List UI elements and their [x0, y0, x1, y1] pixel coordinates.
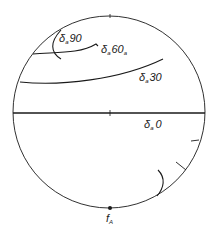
delta-60-curve: [33, 44, 98, 54]
label-delta-90: δa90: [59, 32, 83, 45]
label-delta-30: δa30: [139, 71, 163, 84]
pole-point: [108, 206, 112, 210]
label-delta-60: δa60a: [101, 43, 128, 56]
diagram-canvas: δa90 δa60a δa30 δa0 fA: [0, 0, 215, 236]
outer-circle: [13, 16, 205, 208]
label-pole-fA: fA: [106, 212, 113, 225]
label-delta-0: δa0: [144, 118, 162, 131]
lower-tick-2: [176, 162, 186, 170]
lower-tick-1: [191, 140, 199, 141]
